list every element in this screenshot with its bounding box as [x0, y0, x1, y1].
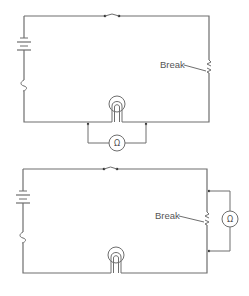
break-leader-line — [184, 65, 206, 71]
break-label: Break — [160, 59, 185, 70]
ohmmeter-bottom: Ω — [208, 190, 238, 252]
lamp-icon — [108, 247, 124, 273]
circuit-top: Break Ω — [17, 14, 211, 151]
top-wire-right — [119, 16, 209, 60]
fuse-icon — [21, 80, 27, 91]
lamp-icon — [109, 96, 125, 122]
switch-icon — [104, 14, 121, 17]
bottom-wire-right — [121, 225, 207, 273]
break-icon — [205, 212, 209, 225]
ohmmeter-top: Ω — [87, 123, 147, 151]
ohm-symbol: Ω — [114, 139, 120, 148]
top-wire-right — [117, 169, 207, 212]
bottom-wire-right — [122, 73, 209, 122]
break-leader-line — [179, 216, 204, 222]
battery-icon — [16, 191, 30, 203]
left-wire-lower — [24, 91, 112, 122]
circuit-diagram: Break Ω — [0, 0, 249, 296]
fuse-icon — [20, 232, 26, 243]
break-label: Break — [155, 210, 180, 221]
switch-icon — [103, 167, 119, 170]
left-wire-lower — [23, 243, 111, 273]
battery-icon — [17, 38, 31, 50]
ohm-symbol: Ω — [227, 215, 233, 224]
circuit-bottom: Break Ω — [16, 167, 238, 273]
break-icon — [207, 60, 211, 73]
